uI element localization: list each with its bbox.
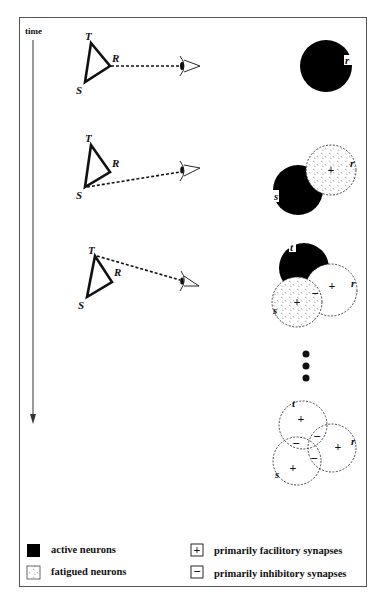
active-swatch (27, 544, 40, 557)
triangle-stimulus: T R S (76, 30, 119, 96)
panel-step-4: t + r + s + − − − (273, 397, 356, 485)
panel-step-1: T R S r (76, 30, 352, 96)
svg-text:R: R (111, 157, 119, 169)
ellipsis-dots (303, 351, 310, 382)
svg-text:r: r (351, 277, 356, 289)
svg-text:r: r (351, 435, 356, 447)
inhibitory-synapse-icon: − (310, 451, 317, 466)
svg-text:T: T (85, 30, 93, 42)
legend-item-facilitory: + primarily facilitory synapses (191, 543, 342, 557)
legend-item-active: active neurons (27, 544, 116, 557)
legend: active neurons fatigued neurons + primar… (27, 543, 346, 579)
inhibitory-synapse-icon: − (311, 286, 318, 301)
inhibitory-synapse-icon: − (313, 429, 320, 444)
panel-step-3: T R S t r + s + − (78, 241, 357, 327)
time-course-diagram: time T R S r T R S (0, 0, 384, 604)
arrow-down-icon (30, 414, 36, 424)
plus-icon: + (194, 543, 201, 557)
svg-text:R: R (113, 266, 121, 278)
facilitory-synapse-icon: + (328, 163, 335, 177)
time-axis: time (25, 26, 42, 424)
svg-text:R: R (111, 52, 119, 64)
minus-icon: − (193, 564, 200, 579)
triangle-stimulus: T R S (76, 132, 119, 201)
svg-text:T: T (85, 132, 93, 144)
eye-icon (180, 271, 199, 291)
facilitory-synapse-icon: + (335, 440, 342, 454)
svg-text:r: r (345, 54, 350, 66)
facilitory-synapse-icon: + (294, 295, 301, 309)
svg-text:fatigued neurons: fatigued neurons (51, 566, 126, 577)
legend-item-fatigued: fatigued neurons (27, 566, 126, 579)
svg-text:t: t (292, 397, 296, 409)
neuron-r-fatigued: r + (306, 145, 356, 195)
svg-text:active neurons: active neurons (51, 544, 116, 555)
legend-item-inhibitory: − primarily inhibitory synapses (191, 564, 346, 579)
facilitory-synapse-icon: + (329, 279, 336, 293)
svg-text:r: r (350, 157, 355, 169)
svg-text:S: S (78, 299, 84, 311)
svg-text:primarily inhibitory synapses: primarily inhibitory synapses (214, 568, 346, 579)
inhibitory-synapse-icon: − (292, 436, 299, 451)
neuron-r-active: r (300, 40, 352, 92)
svg-text:s: s (274, 468, 279, 480)
svg-text:S: S (76, 189, 82, 201)
triangle-stimulus: T R S (78, 244, 121, 311)
svg-text:primarily facilitory synapses: primarily facilitory synapses (214, 545, 342, 556)
svg-text:s: s (272, 304, 277, 316)
eye-icon (180, 56, 200, 76)
neuron-s-fatigued: s + − (272, 277, 322, 327)
panel-step-2: T R S s r + (76, 132, 356, 215)
eye-icon (180, 161, 200, 181)
time-axis-label: time (25, 26, 42, 36)
facilitory-synapse-icon: + (298, 412, 305, 426)
svg-text:S: S (76, 84, 82, 96)
gaze-line (87, 172, 180, 187)
svg-text:s: s (273, 190, 278, 202)
fatigued-swatch (27, 566, 40, 579)
facilitory-synapse-icon: + (290, 461, 297, 475)
